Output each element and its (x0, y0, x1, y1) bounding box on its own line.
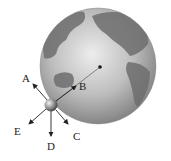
label-e: E (14, 125, 21, 137)
label-b: B (79, 80, 86, 92)
continent-australia (54, 72, 74, 88)
label-d: D (47, 140, 55, 152)
label-a: A (22, 72, 30, 84)
label-c: C (73, 130, 80, 142)
diagram: A B C D E (0, 0, 171, 161)
earth-globe (40, 8, 156, 124)
orbiting-object (45, 99, 58, 112)
vector-e-arrow (29, 109, 46, 124)
